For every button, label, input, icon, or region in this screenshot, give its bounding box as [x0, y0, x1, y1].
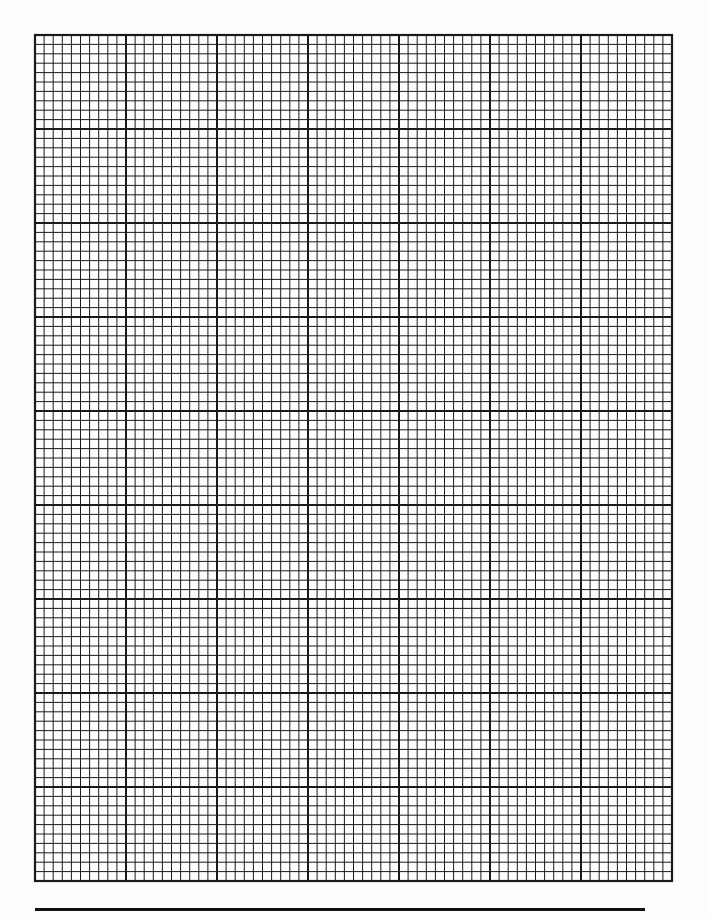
grid	[0, 0, 709, 918]
bottom-underline	[35, 908, 645, 911]
graph-paper-sheet	[0, 0, 709, 918]
